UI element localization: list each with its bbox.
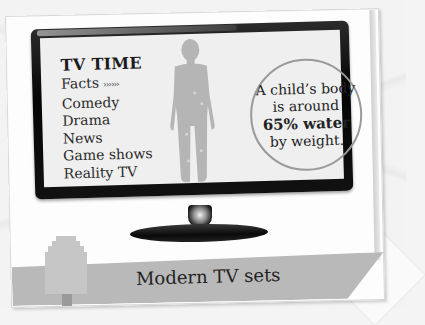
menu-item-reality-tv: Reality TV [63,163,153,183]
menu-item-label: Facts [61,75,99,92]
child-silhouette-icon [160,35,224,187]
fact-line-3: by weight. [270,131,345,150]
fact-line-2: is around [272,96,339,115]
tv-set: TV TIME Facts›››››› Comedy Drama News Ga… [31,21,354,200]
tv-menu: TV TIME Facts›››››› Comedy Drama News Ga… [60,53,153,182]
menu-item-game-shows: Game shows [63,145,153,165]
menu-item-facts: Facts›››››› [61,73,151,95]
menu-title: TV TIME [60,53,150,74]
caption-text: Modern TV sets [136,264,281,289]
fact-line-1: A child’s body [255,79,355,99]
tv-screen: TV TIME Facts›››››› Comedy Drama News Ga… [40,30,344,187]
pixel-tree-icon [42,236,92,306]
arrows-icon: ›››››› [103,79,119,89]
fact-bubble: A child’s body is around 65% water by we… [249,57,364,172]
